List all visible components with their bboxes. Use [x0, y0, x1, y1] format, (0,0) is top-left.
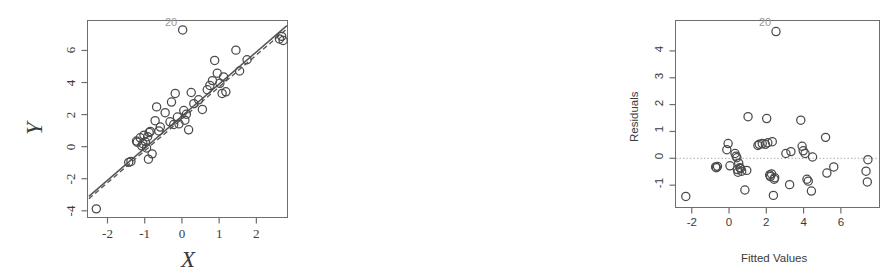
x-tick-label: -1: [131, 226, 159, 242]
panel-studentized-residuals-vs-fitted: Studentized Residuals Fitted Values -202…: [595, 0, 895, 280]
y-tick-label: 4: [63, 75, 79, 91]
panel3-plot: [595, 0, 895, 280]
panel1-ylabel: Y: [22, 122, 48, 135]
panel1-outlier-label: 20: [165, 16, 177, 28]
x-tick-label: 1: [205, 226, 233, 242]
x-tick-label: 0: [168, 226, 196, 242]
y-tick-label: 6: [63, 42, 79, 58]
regression-diagnostics-figure: Y X -2-1012-4-20246 20 Residuals Fitted …: [0, 0, 895, 280]
panel1-xlabel: X: [181, 247, 195, 273]
x-tick-label: -2: [93, 226, 121, 242]
y-tick-label: 2: [63, 107, 79, 123]
y-tick-label: -2: [63, 171, 79, 187]
panel-residuals-vs-fitted: Residuals Fitted Values -20246-101234 20: [300, 0, 595, 280]
panel-scatter-xy: Y X -2-1012-4-20246 20: [0, 0, 300, 280]
y-tick-label: 0: [63, 139, 79, 155]
x-tick-label: 2: [242, 226, 270, 242]
y-tick-label: -4: [63, 203, 79, 219]
